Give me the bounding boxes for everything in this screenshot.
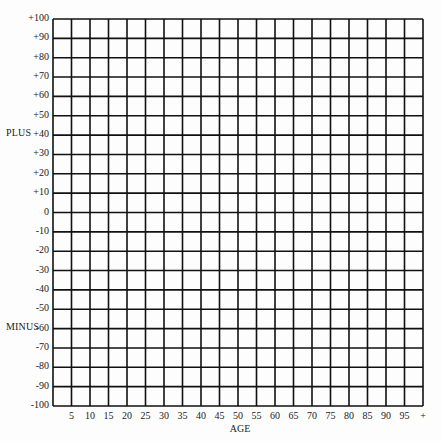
y-tick-label: -100	[9, 400, 49, 410]
y-tick-label: -30	[9, 265, 49, 275]
blank-age-grid-chart: +100+90+80+70+60+50+40+30+20+100-10-20-3…	[0, 0, 442, 441]
y-tick-label: 0	[9, 207, 49, 217]
y-tick-label: +60	[9, 90, 49, 100]
y-tick-label: -10	[9, 226, 49, 236]
y-tick-label: -90	[9, 381, 49, 391]
x-tick-label: +	[411, 411, 435, 421]
minus-label: MINUS	[6, 321, 39, 332]
plus-label: PLUS	[6, 127, 31, 138]
y-tick-label: +80	[9, 52, 49, 62]
x-axis-title: AGE	[218, 423, 262, 434]
grid	[0, 0, 442, 441]
y-tick-label: +30	[9, 148, 49, 158]
y-tick-label: +70	[9, 71, 49, 81]
y-tick-label: -70	[9, 342, 49, 352]
y-tick-label: -80	[9, 361, 49, 371]
y-tick-label: -50	[9, 303, 49, 313]
y-tick-label: +20	[9, 168, 49, 178]
y-tick-label: -40	[9, 284, 49, 294]
y-tick-label: +10	[9, 187, 49, 197]
y-tick-label: +100	[9, 13, 49, 23]
y-tick-label: +90	[9, 32, 49, 42]
y-tick-label: -20	[9, 245, 49, 255]
y-tick-label: +50	[9, 110, 49, 120]
